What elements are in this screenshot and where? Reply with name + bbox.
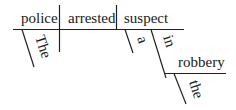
subject-modifier-line: [22, 30, 34, 68]
object-word: suspect: [124, 10, 169, 26]
subject-word: police: [21, 10, 58, 26]
object-modifier-word: a: [134, 34, 151, 46]
object-modifier-line: [125, 30, 133, 54]
sentence-diagram: police arrested suspect The a in robbery…: [0, 0, 236, 110]
prep-object-modifier-word: the: [186, 78, 207, 101]
verb-word: arrested: [68, 10, 116, 26]
prep-object-modifier-line: [174, 74, 186, 105]
subject-modifier-word: The: [32, 33, 55, 60]
prep-object-word: robbery: [178, 54, 225, 70]
preposition-word: in: [160, 33, 179, 50]
